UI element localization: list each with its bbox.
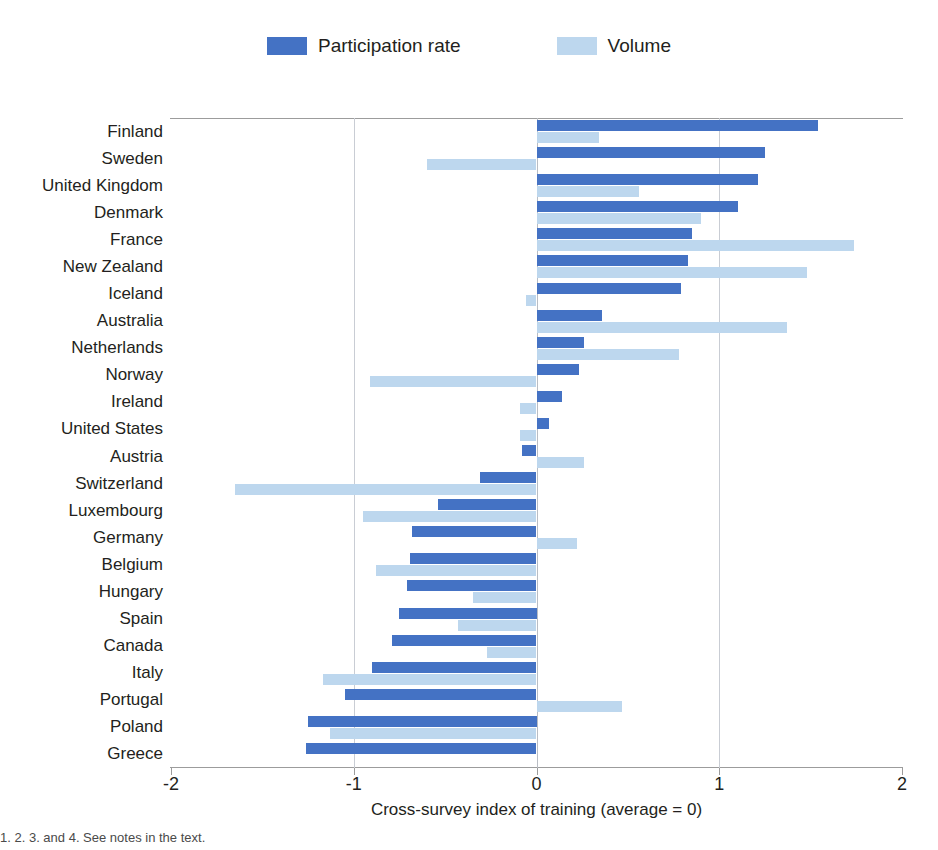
bar-chart: Participation rate Volume FinlandSwedenU… xyxy=(0,0,938,850)
bar-row xyxy=(171,118,902,145)
x-axis-tick-label: 0 xyxy=(531,775,541,793)
x-axis-title: Cross-survey index of training (average … xyxy=(171,801,902,818)
category-label: Luxembourg xyxy=(0,502,163,519)
bar-volume xyxy=(520,430,536,441)
bar-volume xyxy=(537,186,639,197)
bar-participation-rate xyxy=(480,472,537,483)
bar-participation-rate xyxy=(522,445,537,456)
legend-entry-volume: Volume xyxy=(557,36,671,55)
bar-row xyxy=(171,578,902,605)
bar-participation-rate xyxy=(345,689,537,700)
bar-row xyxy=(171,606,902,633)
category-label: Austria xyxy=(0,448,163,465)
bar-volume xyxy=(235,484,537,495)
bar-volume xyxy=(427,159,537,170)
plot-area xyxy=(171,118,902,768)
bar-row xyxy=(171,687,902,714)
bar-participation-rate xyxy=(438,499,537,510)
category-label: Belgium xyxy=(0,556,163,573)
bar-row xyxy=(171,253,902,280)
bar-participation-rate xyxy=(308,716,536,727)
bar-volume xyxy=(458,620,537,631)
category-label: Switzerland xyxy=(0,475,163,492)
category-label: Greece xyxy=(0,745,163,762)
legend-label-volume: Volume xyxy=(608,36,671,55)
category-label: Hungary xyxy=(0,583,163,600)
bar-row xyxy=(171,172,902,199)
bar-volume xyxy=(323,674,537,685)
bar-participation-rate xyxy=(537,364,579,375)
bar-row xyxy=(171,226,902,253)
category-label: Italy xyxy=(0,664,163,681)
bar-participation-rate xyxy=(399,608,536,619)
category-axis-labels: FinlandSwedenUnited KingdomDenmarkFrance… xyxy=(0,118,163,768)
bar-participation-rate xyxy=(537,310,603,321)
category-label: Finland xyxy=(0,123,163,140)
category-label: Norway xyxy=(0,366,163,383)
bar-row xyxy=(171,308,902,335)
bar-row xyxy=(171,389,902,416)
category-label: Netherlands xyxy=(0,339,163,356)
bar-volume xyxy=(537,213,701,224)
bar-row xyxy=(171,524,902,551)
bar-participation-rate xyxy=(537,283,681,294)
bar-participation-rate xyxy=(537,201,738,212)
bar-volume xyxy=(537,538,577,549)
bar-participation-rate xyxy=(392,635,536,646)
category-label: Australia xyxy=(0,312,163,329)
bar-volume xyxy=(526,295,537,306)
category-label: United Kingdom xyxy=(0,177,163,194)
bar-row xyxy=(171,633,902,660)
bar-row xyxy=(171,660,902,687)
bar-participation-rate xyxy=(537,391,563,402)
bar-volume xyxy=(363,511,537,522)
bar-volume xyxy=(537,267,807,278)
bar-row xyxy=(171,199,902,226)
bar-participation-rate xyxy=(410,553,536,564)
bar-participation-rate xyxy=(537,418,550,429)
legend-label-participation-rate: Participation rate xyxy=(318,36,461,55)
x-axis-tick-label: -2 xyxy=(163,775,179,793)
bar-volume xyxy=(537,701,623,712)
bar-volume xyxy=(537,322,787,333)
bar-volume xyxy=(537,240,855,251)
category-label: Ireland xyxy=(0,393,163,410)
category-label: United States xyxy=(0,420,163,437)
legend-swatch-volume-icon xyxy=(557,37,597,55)
bar-participation-rate xyxy=(412,526,536,537)
bar-participation-rate xyxy=(537,228,692,239)
bar-participation-rate xyxy=(537,337,585,348)
bar-participation-rate xyxy=(306,743,536,754)
bar-row xyxy=(171,714,902,741)
bar-row xyxy=(171,416,902,443)
category-label: Poland xyxy=(0,718,163,735)
category-label: France xyxy=(0,231,163,248)
bar-row xyxy=(171,551,902,578)
category-label: Sweden xyxy=(0,150,163,167)
bar-participation-rate xyxy=(537,255,689,266)
chart-legend: Participation rate Volume xyxy=(0,36,938,55)
bar-volume xyxy=(473,592,537,603)
x-axis-tick-label: 2 xyxy=(897,775,907,793)
bar-row xyxy=(171,497,902,524)
bar-volume xyxy=(376,565,537,576)
bar-row xyxy=(171,335,902,362)
bar-volume xyxy=(537,132,599,143)
bar-volume xyxy=(537,349,680,360)
bar-row xyxy=(171,281,902,308)
category-label: Germany xyxy=(0,529,163,546)
bar-volume xyxy=(330,728,537,739)
bar-volume xyxy=(520,403,536,414)
bar-participation-rate xyxy=(537,174,758,185)
bar-row xyxy=(171,362,902,389)
category-label: New Zealand xyxy=(0,258,163,275)
bar-row xyxy=(171,443,902,470)
bar-participation-rate xyxy=(537,120,818,131)
x-axis-tick-label: -1 xyxy=(346,775,362,793)
bar-volume xyxy=(537,457,585,468)
legend-swatch-participation-icon xyxy=(267,37,307,55)
bar-participation-rate xyxy=(372,662,536,673)
category-label: Canada xyxy=(0,637,163,654)
bar-row xyxy=(171,470,902,497)
category-label: Portugal xyxy=(0,691,163,708)
